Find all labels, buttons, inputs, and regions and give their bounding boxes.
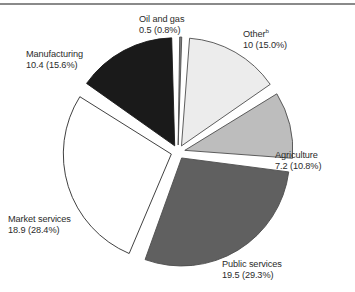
slice-label-value: 0.5 (0.8%) — [139, 25, 184, 36]
pie-slice-oil-and-gas[interactable] — [178, 37, 182, 145]
slice-label-name: Public services — [222, 259, 282, 270]
slice-label-other: Otherb 10 (15.0%) — [243, 29, 287, 52]
slice-label-agriculture: Agriculture 7.2 (10.8%) — [275, 150, 321, 173]
pie-slice-public-services[interactable] — [145, 158, 289, 266]
slice-label-name: Market services — [8, 214, 71, 225]
slice-label-market-services: Market services 18.9 (28.4%) — [8, 214, 71, 237]
slice-label-name: Agriculture — [275, 150, 321, 161]
slice-label-name: Otherb — [243, 29, 287, 40]
slice-label-value: 18.9 (28.4%) — [8, 225, 71, 236]
pie-chart-graphic — [0, 0, 355, 292]
slice-label-value: 10.4 (15.6%) — [26, 60, 83, 71]
slice-label-value: 19.5 (29.3%) — [222, 270, 282, 281]
slice-label-value: 7.2 (10.8%) — [275, 161, 321, 172]
slice-label-name: Manufacturing — [26, 49, 83, 60]
slice-label-name: Oil and gas — [139, 14, 184, 25]
slice-label-public-services: Public services 19.5 (29.3%) — [222, 259, 282, 282]
footnote-marker: b — [265, 27, 268, 34]
slice-label-value: 10 (15.0%) — [243, 40, 287, 51]
pie-chart-figure: Oil and gas 0.5 (0.8%) Otherb 10 (15.0%)… — [0, 0, 355, 292]
slice-label-manufacturing: Manufacturing 10.4 (15.6%) — [26, 49, 83, 72]
slice-label-oil-and-gas: Oil and gas 0.5 (0.8%) — [139, 14, 184, 37]
